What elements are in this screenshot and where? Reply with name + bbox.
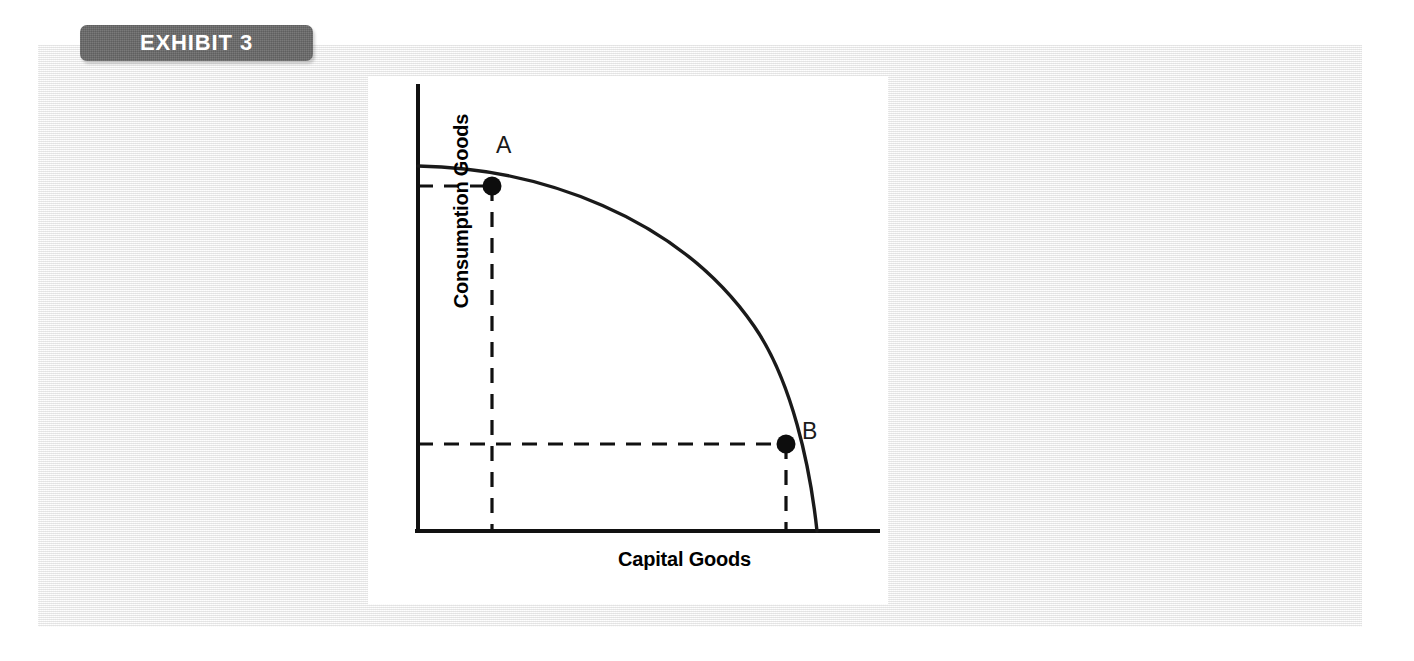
ppf-curve — [418, 166, 817, 531]
point-b-label: B — [802, 418, 817, 445]
ppf-chart — [368, 76, 888, 604]
exhibit-tab-label: EXHIBIT 3 — [140, 32, 253, 55]
y-axis-title: Consumption Goods — [450, 96, 476, 326]
chart-canvas: Consumption Goods Capital Goods A B — [368, 76, 888, 604]
point-a-marker — [483, 177, 502, 196]
x-axis-title: Capital Goods — [618, 548, 751, 571]
point-a-label: A — [496, 132, 511, 159]
exhibit-tab: EXHIBIT 3 — [80, 25, 313, 61]
point-b-marker — [777, 435, 796, 454]
